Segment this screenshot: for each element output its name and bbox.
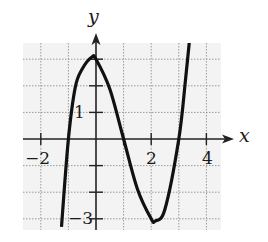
x-tick-label-2: 2 (146, 148, 157, 168)
x-tick-label-4: 4 (202, 148, 213, 168)
cubic-function-graph: y x −2 2 4 1 −3 (0, 0, 268, 242)
y-axis-label: y (87, 5, 99, 27)
y-tick-label-neg3: −3 (68, 208, 93, 228)
y-tick-label-1: 1 (74, 102, 85, 122)
x-tick-label-neg2: −2 (25, 148, 50, 168)
x-axis-label: x (239, 124, 250, 146)
